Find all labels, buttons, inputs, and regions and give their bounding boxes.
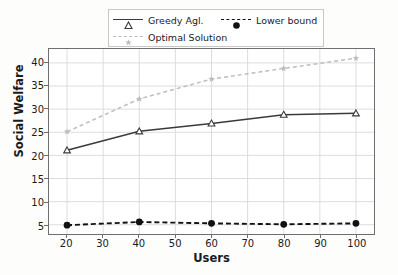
data-series-layer — [49, 49, 374, 234]
x-tick-mark — [356, 234, 357, 238]
plot-area — [48, 48, 375, 235]
y-tick-label: 5 — [18, 220, 44, 231]
x-tick-mark — [175, 234, 176, 238]
legend-label-lower-bound: Lower bound — [256, 15, 317, 26]
x-tick-mark — [66, 234, 67, 238]
x-tick-label: 100 — [347, 238, 366, 249]
x-tick-mark — [320, 234, 321, 238]
x-tick-label: 30 — [96, 238, 109, 249]
legend-swatch-optimal-solution — [113, 31, 143, 43]
x-tick-mark — [247, 234, 248, 238]
y-tick-mark — [44, 178, 48, 179]
x-tick-label: 40 — [132, 238, 145, 249]
y-tick-mark — [44, 85, 48, 86]
chart-figure: Greedy Agl. Lower bound Optimal Solution — [0, 0, 398, 275]
legend-swatch-lower-bound — [221, 14, 251, 26]
legend-label-optimal-solution: Optimal Solution — [148, 32, 227, 43]
y-tick-mark — [44, 202, 48, 203]
y-tick-mark — [44, 155, 48, 156]
x-tick-label: 20 — [60, 238, 73, 249]
x-tick-label: 70 — [241, 238, 254, 249]
x-axis-title: Users — [48, 251, 375, 265]
y-tick-label: 10 — [18, 197, 44, 208]
y-tick-mark — [44, 132, 48, 133]
y-axis-title: Social Welfare — [12, 46, 26, 176]
x-tick-label: 90 — [314, 238, 327, 249]
x-tick-label: 50 — [169, 238, 182, 249]
x-tick-mark — [211, 234, 212, 238]
x-tick-mark — [102, 234, 103, 238]
legend-swatch-greedy-agl — [113, 14, 143, 26]
chart-legend: Greedy Agl. Lower bound Optimal Solution — [108, 9, 324, 47]
x-tick-mark — [284, 234, 285, 238]
x-tick-mark — [138, 234, 139, 238]
legend-item-optimal-solution: Optimal Solution — [113, 29, 227, 45]
legend-item-lower-bound: Lower bound — [221, 12, 317, 28]
x-axis-tick-labels: 2030405060708090100 — [48, 238, 375, 252]
circle-filled-icon — [232, 15, 241, 34]
legend-item-greedy-agl: Greedy Agl. — [113, 12, 204, 28]
y-tick-mark — [44, 62, 48, 63]
y-tick-mark — [44, 108, 48, 109]
x-tick-label: 60 — [205, 238, 218, 249]
x-tick-label: 80 — [278, 238, 291, 249]
legend-label-greedy-agl: Greedy Agl. — [148, 15, 204, 26]
y-tick-mark — [44, 225, 48, 226]
